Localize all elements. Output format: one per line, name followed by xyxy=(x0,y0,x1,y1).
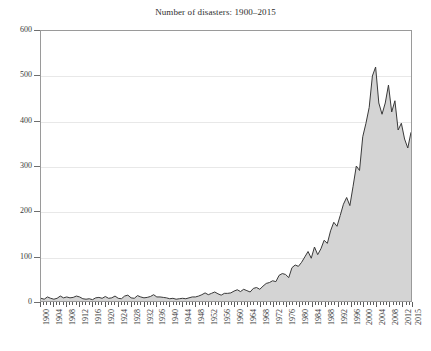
area-fill xyxy=(41,67,411,301)
x-tick-mark-minor xyxy=(347,302,348,305)
y-tick-mark xyxy=(34,211,40,212)
x-tick-mark-minor xyxy=(244,302,245,305)
x-tick-mark-minor xyxy=(76,302,77,305)
x-tick-label: 1904 xyxy=(56,309,64,325)
x-tick-mark-major xyxy=(208,302,209,307)
x-tick-mark-minor xyxy=(72,302,73,305)
x-tick-mark-major xyxy=(131,302,132,307)
x-tick-mark-minor xyxy=(231,302,232,305)
x-tick-mark-minor xyxy=(186,302,187,305)
chart-figure: Number of disasters: 1900–2015 010020030… xyxy=(0,0,431,351)
x-tick-mark-minor xyxy=(211,302,212,305)
y-tick-label: 300 xyxy=(2,162,32,170)
x-tick-mark-minor xyxy=(357,302,358,305)
x-tick-mark-minor xyxy=(354,302,355,305)
x-tick-mark-minor xyxy=(82,302,83,305)
x-tick-mark-minor xyxy=(228,302,229,305)
x-tick-label: 1956 xyxy=(224,309,232,325)
x-tick-mark-minor xyxy=(334,302,335,305)
x-tick-mark-minor xyxy=(224,302,225,305)
x-tick-mark-major xyxy=(338,302,339,307)
x-tick-mark-minor xyxy=(241,302,242,305)
x-tick-mark-minor xyxy=(160,302,161,305)
x-tick-mark-minor xyxy=(147,302,148,305)
x-tick-mark-minor xyxy=(396,302,397,305)
x-tick-mark-minor xyxy=(199,302,200,305)
x-tick-mark-major xyxy=(53,302,54,307)
x-tick-mark-minor xyxy=(308,302,309,305)
x-tick-mark-major xyxy=(402,302,403,307)
x-tick-mark-minor xyxy=(292,302,293,305)
area-series xyxy=(41,31,411,301)
x-tick-label: 1936 xyxy=(159,309,167,325)
x-tick-mark-minor xyxy=(192,302,193,305)
x-tick-label: 1924 xyxy=(121,309,129,325)
x-tick-mark-minor xyxy=(189,302,190,305)
x-tick-mark-minor xyxy=(253,302,254,305)
x-tick-mark-minor xyxy=(43,302,44,305)
x-tick-mark-minor xyxy=(305,302,306,305)
x-tick-mark-major xyxy=(156,302,157,307)
x-tick-mark-major xyxy=(412,302,413,307)
x-tick-label: 1916 xyxy=(95,309,103,325)
x-tick-label: 1932 xyxy=(147,309,155,325)
x-tick-mark-major xyxy=(325,302,326,307)
x-tick-label: 2004 xyxy=(379,309,387,325)
x-tick-mark-minor xyxy=(50,302,51,305)
x-tick-mark-minor xyxy=(331,302,332,305)
x-tick-mark-minor xyxy=(302,302,303,305)
x-tick-mark-major xyxy=(79,302,80,307)
x-tick-mark-minor xyxy=(406,302,407,305)
x-tick-mark-minor xyxy=(393,302,394,305)
x-tick-label: 1980 xyxy=(302,309,310,325)
x-tick-mark-minor xyxy=(321,302,322,305)
x-tick-mark-minor xyxy=(279,302,280,305)
x-tick-mark-major xyxy=(105,302,106,307)
x-tick-mark-minor xyxy=(202,302,203,305)
x-tick-mark-major xyxy=(312,302,313,307)
x-tick-mark-major xyxy=(273,302,274,307)
x-tick-mark-minor xyxy=(56,302,57,305)
x-tick-mark-minor xyxy=(89,302,90,305)
x-tick-mark-minor xyxy=(127,302,128,305)
x-tick-mark-minor xyxy=(69,302,70,305)
x-tick-mark-minor xyxy=(176,302,177,305)
x-tick-mark-minor xyxy=(134,302,135,305)
x-tick-label: 1988 xyxy=(328,309,336,325)
x-tick-label: 1952 xyxy=(211,309,219,325)
x-tick-mark-minor xyxy=(153,302,154,305)
x-tick-mark-major xyxy=(221,302,222,307)
x-tick-mark-minor xyxy=(373,302,374,305)
y-tick-label: 200 xyxy=(2,207,32,215)
y-tick-mark xyxy=(34,30,40,31)
x-tick-mark-major xyxy=(286,302,287,307)
x-tick-label: 1968 xyxy=(263,309,271,325)
x-tick-mark-minor xyxy=(121,302,122,305)
x-tick-mark-minor xyxy=(341,302,342,305)
x-tick-label: 1940 xyxy=(172,309,180,325)
y-tick-mark xyxy=(34,257,40,258)
x-tick-label: 1908 xyxy=(69,309,77,325)
x-tick-mark-minor xyxy=(328,302,329,305)
x-tick-mark-minor xyxy=(383,302,384,305)
x-tick-label: 1900 xyxy=(43,309,51,325)
y-tick-label: 500 xyxy=(2,71,32,79)
x-tick-mark-minor xyxy=(218,302,219,305)
x-tick-mark-minor xyxy=(59,302,60,305)
x-tick-label: 1992 xyxy=(341,309,349,325)
x-tick-mark-major xyxy=(363,302,364,307)
x-tick-mark-minor xyxy=(250,302,251,305)
y-tick-mark xyxy=(34,121,40,122)
x-tick-mark-minor xyxy=(296,302,297,305)
x-tick-label: 1964 xyxy=(250,309,258,325)
x-tick-mark-major xyxy=(169,302,170,307)
y-tick-mark xyxy=(34,75,40,76)
x-tick-mark-minor xyxy=(409,302,410,305)
x-tick-mark-minor xyxy=(399,302,400,305)
x-tick-label: 1976 xyxy=(289,309,297,325)
x-tick-mark-major xyxy=(389,302,390,307)
x-tick-label: 2012 xyxy=(405,309,413,325)
x-tick-mark-minor xyxy=(111,302,112,305)
x-tick-label: 1972 xyxy=(276,309,284,325)
x-tick-mark-minor xyxy=(283,302,284,305)
